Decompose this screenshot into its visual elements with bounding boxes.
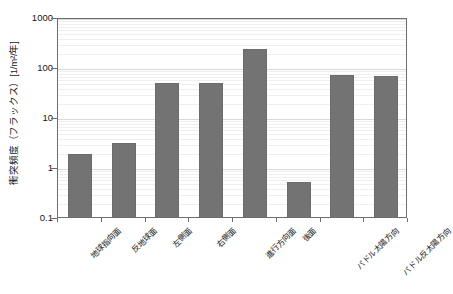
x-axis-tick-mark bbox=[145, 218, 146, 222]
x-axis-tick-label: 後面 bbox=[300, 226, 318, 244]
x-axis-tick-mark bbox=[276, 218, 277, 222]
x-axis-tick-label: 右側面 bbox=[215, 226, 239, 250]
x-axis-tick-label: パドル太陽方向 bbox=[356, 226, 402, 272]
x-axis-tick-mark bbox=[363, 218, 364, 222]
x-axis-tick-label: 進行方向面 bbox=[263, 226, 298, 261]
x-axis-tick-mark bbox=[101, 218, 102, 222]
x-axis-tick-label: 地球指向面 bbox=[88, 226, 123, 261]
x-axis-tick-mark bbox=[320, 218, 321, 222]
x-axis-tick-mark bbox=[188, 218, 189, 222]
x-axis-tick-mark bbox=[232, 218, 233, 222]
x-axis-tick-label: 反地球面 bbox=[130, 226, 159, 255]
x-axis-tick-mark bbox=[57, 218, 58, 222]
x-axis-tick-label: パドル反太陽方向 bbox=[402, 226, 453, 278]
x-axis-tick-mark bbox=[407, 218, 408, 222]
x-axis-tick-label: 左側面 bbox=[171, 226, 195, 250]
